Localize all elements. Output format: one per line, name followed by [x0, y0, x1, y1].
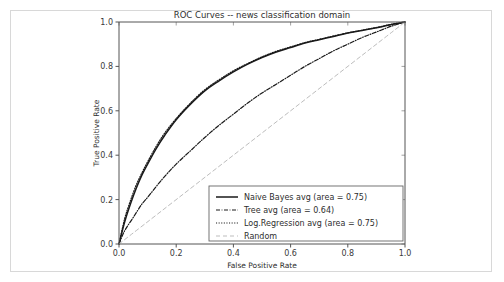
legend-label: Naive Bayes avg (area = 0.75): [244, 193, 367, 202]
y-tick-label: 0.8: [100, 62, 113, 71]
chart-canvas: ROC Curves -- news classification domain…: [0, 0, 504, 282]
x-tick-label: 0.8: [341, 249, 354, 258]
y-tick-label: 0.6: [100, 107, 113, 116]
chart-legend: Naive Bayes avg (area = 0.75)Tree avg (a…: [209, 186, 403, 241]
x-tick-label: 0.6: [284, 249, 297, 258]
y-tick-label: 0.0: [100, 240, 113, 249]
y-tick-label: 0.2: [100, 196, 113, 205]
legend-label: Random: [244, 232, 277, 241]
legend-label: Log.Regression avg (area = 0.75): [244, 219, 378, 228]
x-tick-label: 0.4: [227, 249, 240, 258]
chart-title: ROC Curves -- news classification domain: [174, 10, 351, 20]
x-tick-label: 0.0: [113, 249, 126, 258]
x-tick-label: 0.2: [170, 249, 183, 258]
y-tick-label: 0.4: [100, 151, 113, 160]
x-tick-label: 1.0: [399, 249, 412, 258]
y-tick-label: 1.0: [100, 18, 113, 27]
roc-chart-figure: ROC Curves -- news classification domain…: [0, 0, 504, 282]
legend-label: Tree avg (area = 0.64): [243, 206, 334, 215]
x-axis-label: False Positive Rate: [227, 261, 297, 270]
y-axis-label: True Positive Rate: [92, 99, 101, 167]
